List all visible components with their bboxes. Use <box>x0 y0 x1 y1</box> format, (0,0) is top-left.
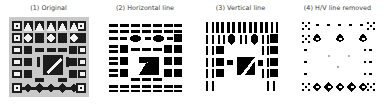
figure-container: (1) Original <box>0 0 387 104</box>
plot-svg-hv-line-removed <box>298 17 378 97</box>
panel-title-horizontal-line: (2) Horizontal line <box>97 4 193 12</box>
plot-horizontal-line <box>105 17 185 97</box>
plot-svg-vertical-line <box>201 17 281 97</box>
panel-title-original: (1) Original <box>0 4 97 12</box>
plot-svg-original <box>9 17 89 97</box>
panel-original: (1) Original <box>0 0 97 104</box>
panel-horizontal-line: (2) Horizontal line <box>97 0 193 104</box>
panel-hv-line-removed: (4) H/V line removed <box>288 0 387 104</box>
plot-vertical-line <box>201 17 281 97</box>
panel-title-hv-line-removed: (4) H/V line removed <box>288 4 387 12</box>
plot-hv-line-removed <box>298 17 378 97</box>
panel-vertical-line: (3) Vertical line <box>193 0 288 104</box>
panel-title-vertical-line: (3) Vertical line <box>193 4 288 12</box>
plot-original <box>9 17 89 97</box>
plot-svg-horizontal-line <box>105 17 185 97</box>
